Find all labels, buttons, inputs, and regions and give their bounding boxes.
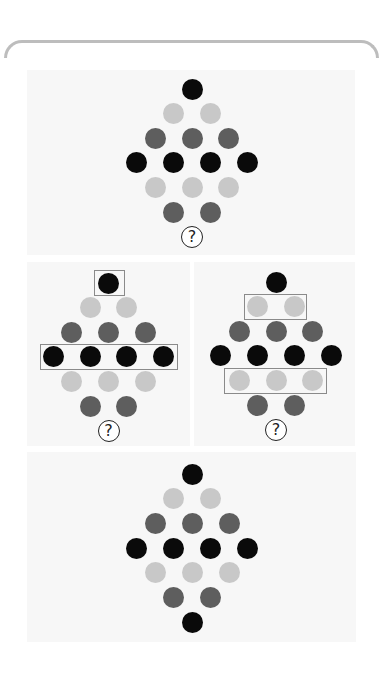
dark-circle [145,513,166,534]
dark-circle [80,396,101,417]
light-circle [219,562,240,583]
light-circle [200,103,221,124]
black-circle [126,538,147,559]
light-circle [266,370,287,391]
black-circle [98,273,119,294]
light-circle [284,296,305,317]
dark-circle [284,395,305,416]
black-circle [182,464,203,485]
dark-circle [200,587,221,608]
dark-circle [116,396,137,417]
dark-circle [302,321,323,342]
dark-circle [163,202,184,223]
dark-circle [266,321,287,342]
dark-circle [163,587,184,608]
black-circle [237,538,258,559]
question-mark-icon: ? [98,420,120,442]
light-circle [145,562,166,583]
black-circle [266,272,287,293]
black-circle [321,345,342,366]
dark-circle [219,513,240,534]
dark-circle [135,322,156,343]
light-circle [145,177,166,198]
black-circle [43,346,64,367]
black-circle [182,79,203,100]
dark-circle [200,202,221,223]
light-circle [135,371,156,392]
question-mark-icon: ? [265,419,287,441]
question-mark-icon: ? [181,226,203,248]
light-circle [182,177,203,198]
black-circle [237,152,258,173]
dark-circle [145,128,166,149]
dark-circle [182,128,203,149]
light-circle [61,371,82,392]
black-circle [80,346,101,367]
dark-circle [218,128,239,149]
dark-circle [98,322,119,343]
black-circle [200,538,221,559]
dark-circle [61,322,82,343]
black-circle [182,612,203,633]
light-circle [98,371,119,392]
dark-circle [247,395,268,416]
light-circle [182,562,203,583]
dark-circle [229,321,250,342]
light-circle [229,370,250,391]
light-circle [80,297,101,318]
black-circle [163,538,184,559]
dark-circle [182,513,203,534]
